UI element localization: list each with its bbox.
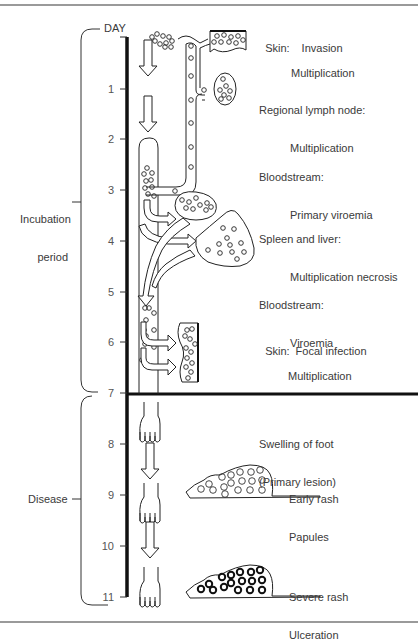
skin-invasion-illustration [210,31,246,52]
lymph-virions [173,44,207,194]
stage-severe-rash: Severe rash Ulceration [289,566,348,643]
skin-focal-illustration [178,323,198,382]
day-label: 9 [92,489,114,501]
arrow-down-icon [141,522,159,558]
foot-icon [140,567,160,607]
arrow-down-icon [139,96,157,132]
disease-period-label: Disease [28,493,68,506]
axis-title: DAY [104,22,126,35]
incubation-period-label: Incubation period [20,188,68,276]
arrow-down-icon [139,40,157,76]
day-label: 7 [92,387,114,399]
stage-early-rash: Early rash Papules [289,468,339,556]
swollen-foot-icon [140,402,160,442]
foot-icon [140,483,160,523]
day-label: 5 [92,286,114,298]
day-label: 2 [92,133,114,145]
day-label: 11 [92,591,114,603]
day-label: 4 [92,235,114,247]
stage-skin-focal: Skin:Focal infection Multiplication [259,332,367,395]
spleen-illustration [175,192,216,220]
day-label: 6 [92,336,114,348]
day-label: 8 [92,438,114,450]
inoculum-virions [150,32,175,50]
lymphatic-vessel [146,36,210,195]
day-label: 10 [92,540,114,552]
day-label: 1 [92,83,114,95]
arrow-down-icon [141,443,159,479]
lymph-node-illustration [214,73,236,105]
day-label: 3 [92,184,114,196]
